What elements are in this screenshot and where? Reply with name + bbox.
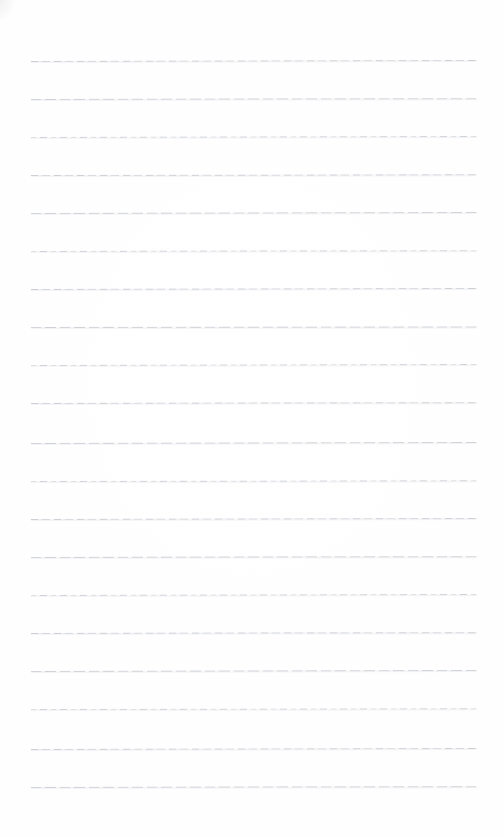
writing-line[interactable] xyxy=(31,179,477,213)
writing-line[interactable] xyxy=(31,331,477,365)
writing-line[interactable] xyxy=(31,637,477,671)
writing-line[interactable] xyxy=(31,369,477,403)
writing-line[interactable] xyxy=(31,599,477,633)
writing-line[interactable] xyxy=(31,753,477,787)
writing-line[interactable] xyxy=(31,409,477,443)
writing-line[interactable] xyxy=(31,675,477,709)
writing-line[interactable] xyxy=(31,27,477,61)
lined-paper-page xyxy=(0,0,504,837)
writing-line[interactable] xyxy=(31,103,477,137)
writing-line[interactable] xyxy=(31,65,477,99)
writing-line[interactable] xyxy=(31,447,477,481)
writing-line[interactable] xyxy=(31,141,477,175)
writing-line[interactable] xyxy=(31,255,477,289)
writing-line[interactable] xyxy=(31,715,477,749)
writing-line[interactable] xyxy=(31,523,477,557)
writing-line[interactable] xyxy=(31,561,477,595)
writing-line[interactable] xyxy=(31,485,477,519)
writing-line[interactable] xyxy=(31,293,477,327)
writing-line[interactable] xyxy=(31,217,477,251)
